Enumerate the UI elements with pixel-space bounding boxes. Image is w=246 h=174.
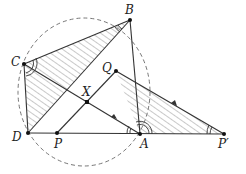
point-q <box>114 69 118 73</box>
point-c <box>22 62 26 66</box>
label-p: P <box>53 137 63 151</box>
point-x <box>85 100 89 104</box>
label-c: C <box>11 55 20 69</box>
point-b <box>128 18 132 22</box>
label-b: B <box>124 3 134 17</box>
angle-mark-a2 <box>127 126 129 134</box>
label-p-prime: P′ <box>217 137 229 151</box>
label-a: A <box>139 137 149 151</box>
point-p-prime <box>222 132 226 136</box>
geometry-diagram: B C D A P P′ Q X <box>0 0 246 174</box>
label-x: X <box>81 85 91 99</box>
point-p <box>55 131 59 135</box>
point-a <box>138 132 142 136</box>
label-d: D <box>11 130 22 144</box>
point-d <box>26 131 30 135</box>
label-q: Q <box>102 61 112 75</box>
